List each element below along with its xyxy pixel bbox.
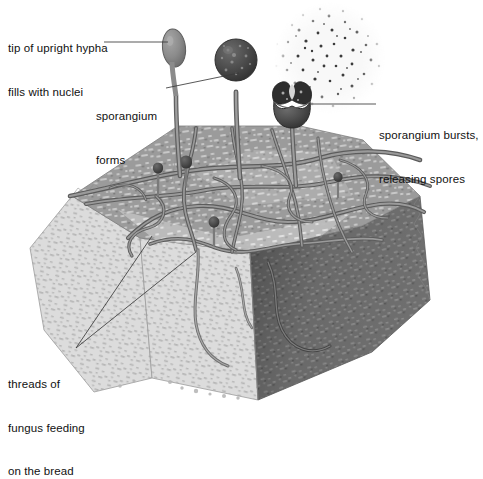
label-tip-line1: tip of upright hypha: [8, 41, 108, 56]
label-tip-line2: fills with nuclei: [8, 85, 108, 100]
leader-line-sporangium-forms: [166, 73, 239, 88]
label-sporangium-forms: sporangium forms: [96, 80, 157, 196]
label-bursts-line2: releasing spores: [379, 172, 479, 187]
label-tip-of-upright-hypha: tip of upright hypha fills with nuclei: [8, 12, 108, 128]
label-threads-line2: fungus feeding: [8, 421, 85, 436]
label-threads-line3: on the bread: [8, 464, 85, 479]
label-sporangium-bursts: sporangium bursts, releasing spores: [379, 99, 479, 215]
label-sporangium-forms-line2: forms: [96, 153, 157, 168]
label-sporangium-forms-line1: sporangium: [96, 109, 157, 124]
label-bursts-line1: sporangium bursts,: [379, 128, 479, 143]
label-threads-of-fungus: threads of fungus feeding on the bread: [8, 348, 85, 479]
label-threads-line1: threads of: [8, 377, 85, 392]
